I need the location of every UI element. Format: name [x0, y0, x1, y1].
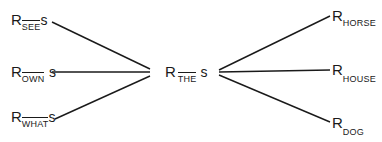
node-the-R: R — [165, 63, 176, 80]
node-dog-R: R — [332, 114, 343, 131]
node-what-sub: WHAT — [22, 117, 49, 129]
node-horse: RHORSE — [332, 8, 376, 24]
node-house: RHOUSE — [332, 62, 376, 78]
node-what-s: s — [48, 109, 55, 125]
node-own-sub: OWN — [22, 72, 45, 84]
edge-the-horse — [219, 16, 330, 70]
edge-the-dog — [219, 75, 330, 122]
node-see-s: s — [40, 12, 47, 28]
node-the-s: s — [200, 64, 207, 80]
node-house-sub: HOUSE — [343, 74, 376, 84]
node-what: RWHATs — [11, 109, 55, 125]
node-see-R: R — [11, 11, 22, 28]
node-own: ROWN s — [11, 64, 56, 80]
node-dog: RDOG — [332, 115, 364, 131]
node-what-R: R — [11, 108, 22, 125]
node-see: RSEEs — [11, 12, 47, 28]
node-own-R: R — [11, 63, 22, 80]
node-own-s: s — [49, 64, 56, 80]
node-the-sub: THE — [178, 72, 197, 84]
node-horse-sub: HORSE — [343, 18, 376, 28]
node-dog-sub: DOG — [343, 127, 364, 137]
edge-see-the — [52, 22, 150, 69]
edge-the-house — [219, 70, 330, 72]
node-house-R: R — [332, 61, 343, 78]
node-horse-R: R — [332, 7, 343, 24]
node-the: RTHEs — [165, 64, 207, 80]
node-see-sub: SEE — [22, 20, 41, 32]
edge-what-the — [55, 76, 150, 119]
